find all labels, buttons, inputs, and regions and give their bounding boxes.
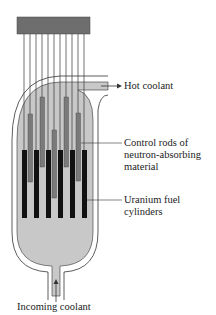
control-rod-drive-block <box>17 17 90 34</box>
label-fuel-2: cylinders <box>124 206 163 218</box>
label-fuel-1: Uranium fuel <box>124 194 180 206</box>
label-incoming-coolant: Incoming coolant <box>17 301 91 313</box>
label-control-rods-3: material <box>124 161 158 173</box>
vessel-outer-right <box>98 95 108 110</box>
label-control-rods-1: Control rods of <box>124 137 188 149</box>
label-control-rods-2: neutron-absorbing <box>124 149 201 161</box>
label-hot-coolant: Hot coolant <box>124 80 173 92</box>
